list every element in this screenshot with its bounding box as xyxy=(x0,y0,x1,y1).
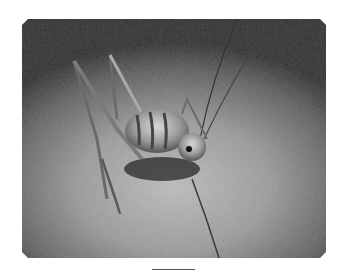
cricket-head xyxy=(178,133,206,161)
cricket-eye xyxy=(186,146,192,152)
scale-bar xyxy=(152,269,195,270)
cricket-photo xyxy=(22,19,326,258)
cricket-shadow xyxy=(124,157,200,181)
cricket-illustration xyxy=(22,19,326,258)
